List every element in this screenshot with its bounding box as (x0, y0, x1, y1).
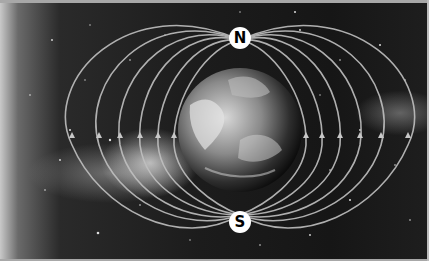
earth-globe (178, 68, 302, 192)
magnetic-field-diagram: N S (0, 0, 429, 261)
field-lines (0, 0, 429, 261)
north-pole-label: N (229, 27, 251, 49)
south-pole-label: S (229, 211, 251, 233)
